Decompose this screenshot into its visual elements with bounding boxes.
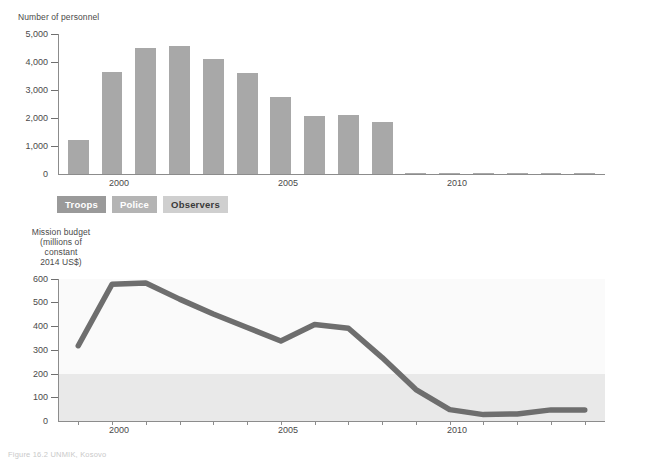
personnel-bar (405, 173, 426, 174)
budget-xtickmark (146, 421, 147, 425)
personnel-bar (270, 97, 291, 174)
legend-label-troops: Troops (65, 199, 98, 210)
personnel-axis-title: Number of personnel (18, 13, 99, 23)
budget-axis-title-line-4: 2014 US$) (22, 258, 100, 268)
legend-item-troops[interactable]: Troops (57, 196, 106, 213)
personnel-bar (135, 48, 156, 174)
personnel-bar (203, 59, 224, 174)
budget-tickmark-100 (51, 397, 58, 398)
budget-ytick-0: 0 (8, 417, 48, 426)
budget-xtickmark (213, 421, 214, 425)
budget-tickmark-300 (51, 350, 58, 351)
personnel-xtick-2000: 2000 (96, 179, 142, 188)
budget-xtickmark (551, 421, 552, 425)
personnel-bar (68, 140, 89, 174)
budget-line-series (58, 279, 605, 421)
legend-label-police: Police (120, 199, 149, 210)
personnel-tickmark-2000 (51, 118, 58, 119)
personnel-x-axis (58, 174, 605, 175)
budget-xtick-2010: 2010 (434, 426, 480, 435)
budget-xtickmark (247, 421, 248, 425)
budget-ytick-500: 500 (8, 298, 48, 307)
personnel-ytick-0: 0 (8, 170, 48, 179)
personnel-bar-group (58, 33, 605, 174)
personnel-legend: Troops Police Observers (57, 196, 228, 213)
personnel-bar (507, 173, 528, 174)
personnel-ytick-5000: 5,000 (8, 30, 48, 39)
budget-ytick-200: 200 (8, 370, 48, 379)
personnel-bar (541, 173, 562, 174)
budget-xtickmark (382, 421, 383, 425)
personnel-bar (102, 72, 123, 174)
budget-tickmark-600 (51, 279, 58, 280)
legend-item-observers[interactable]: Observers (163, 196, 228, 213)
personnel-ytick-4000: 4,000 (8, 58, 48, 67)
personnel-bar (169, 46, 190, 174)
budget-ytick-100: 100 (8, 393, 48, 402)
personnel-bar (237, 73, 258, 174)
budget-tickmark-500 (51, 302, 58, 303)
personnel-bar (439, 173, 460, 174)
budget-x-axis (58, 421, 605, 422)
personnel-ytick-1000: 1,000 (8, 142, 48, 151)
budget-xtickmark (315, 421, 316, 425)
personnel-xtick-2005: 2005 (265, 179, 311, 188)
budget-ytick-400: 400 (8, 322, 48, 331)
budget-xtickmark (78, 421, 79, 425)
personnel-ytick-3000: 3,000 (8, 86, 48, 95)
budget-ytick-300: 300 (8, 346, 48, 355)
budget-xtickmark (585, 421, 586, 425)
personnel-xtick-2010: 2010 (434, 179, 480, 188)
budget-tickmark-200 (51, 374, 58, 375)
budget-ytick-600: 600 (8, 275, 48, 284)
personnel-bar (574, 173, 595, 174)
personnel-bar (473, 173, 494, 174)
budget-xtickmark (348, 421, 349, 425)
chart-personnel: Number of personnel 5,000 4,000 3,000 2,… (0, 0, 648, 220)
legend-item-police[interactable]: Police (112, 196, 157, 213)
personnel-bar (338, 115, 359, 174)
budget-xtickmark (416, 421, 417, 425)
legend-label-observers: Observers (171, 199, 220, 210)
figure-caption: Figure 16.2 UNMIK, Kosovo (8, 450, 106, 459)
budget-xtickmark (180, 421, 181, 425)
personnel-bar (372, 122, 393, 174)
budget-xtickmark (517, 421, 518, 425)
figure-two-panel-chart: Number of personnel 5,000 4,000 3,000 2,… (0, 0, 648, 461)
budget-xtick-2005: 2005 (265, 426, 311, 435)
budget-xtickmark (483, 421, 484, 425)
budget-xtick-2000: 2000 (96, 426, 142, 435)
personnel-tickmark-5000 (51, 34, 58, 35)
chart-budget: Mission budget (millions of constant 201… (0, 225, 648, 461)
personnel-ytick-2000: 2,000 (8, 114, 48, 123)
personnel-tickmark-1000 (51, 146, 58, 147)
personnel-tickmark-3000 (51, 90, 58, 91)
personnel-tickmark-4000 (51, 62, 58, 63)
personnel-bar (304, 116, 325, 174)
budget-tickmark-400 (51, 326, 58, 327)
